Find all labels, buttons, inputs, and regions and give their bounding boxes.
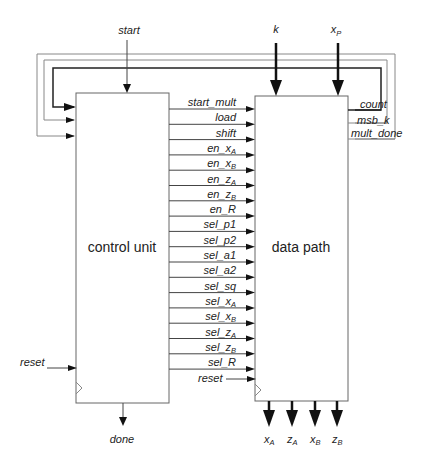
control-signal: en_R — [169, 203, 255, 219]
control-signal: shift — [169, 127, 255, 143]
control-signal-label: sel_a1 — [204, 249, 236, 261]
arrow-down-icon — [309, 410, 321, 427]
msb-k-label: msb_k — [357, 114, 390, 126]
control-signal-label: sel_p2 — [204, 234, 236, 246]
arrow-down-icon — [286, 410, 298, 427]
control-signal-label: en_xA — [207, 142, 236, 156]
arrow-right-icon — [246, 320, 255, 326]
arrow-right-icon — [246, 366, 255, 372]
control-signal-label: sel_sq — [204, 280, 237, 292]
control-signal-bus: start_multloadshiften_xAen_xBen_zAen_zBe… — [169, 96, 255, 372]
arrow-down-icon — [331, 410, 343, 427]
data-output: zB — [331, 401, 343, 447]
xp-label: xP — [330, 23, 342, 38]
control-signal-label: sel_a2 — [204, 264, 236, 276]
control-signal: sel_a1 — [169, 249, 255, 265]
data-output-label: xB — [309, 433, 321, 447]
diagram-canvas: control unit data path count msb_k mult_… — [0, 0, 435, 467]
control-signal: sel_xA — [169, 295, 255, 311]
control-signal: sel_a2 — [169, 264, 255, 280]
mult-done-label: mult_done — [351, 127, 402, 139]
control-signal-label: en_xB — [207, 157, 236, 171]
arrow-right-icon — [246, 290, 255, 296]
data-output: xA — [263, 401, 275, 447]
data-output-bus: xAzAxBzB — [263, 401, 343, 447]
arrow-right-icon — [246, 167, 255, 173]
control-signal-label: sel_zA — [205, 326, 236, 340]
k-arrow-icon — [270, 80, 282, 96]
data-output-label: xA — [263, 433, 275, 447]
control-signal-label: en_zB — [207, 188, 236, 202]
control-signal: sel_zB — [169, 341, 255, 357]
control-signal: sel_R — [169, 356, 255, 372]
arrow-right-icon — [246, 106, 255, 112]
control-signal: sel_zA — [169, 326, 255, 342]
done-label: done — [110, 433, 134, 445]
arrow-right-icon — [246, 121, 255, 127]
control-signal-label: load — [215, 111, 237, 123]
control-signal: load — [169, 111, 255, 127]
count-label: count — [360, 98, 388, 110]
xp-arrow-icon — [332, 80, 344, 96]
control-unit-label: control unit — [88, 239, 157, 255]
control-signal-label: en_zA — [207, 173, 236, 187]
data-output: xB — [309, 401, 321, 447]
control-signal-label: shift — [216, 127, 237, 139]
done-arrow-icon — [119, 417, 127, 426]
control-signal: en_zA — [169, 173, 255, 189]
arrow-right-icon — [246, 336, 255, 342]
arrow-right-icon — [246, 183, 255, 189]
control-signal: en_zB — [169, 188, 255, 204]
data-output-label: zB — [331, 433, 343, 447]
control-signal: sel_sq — [169, 280, 255, 296]
control-signal-label: en_R — [210, 203, 236, 215]
arrow-right-icon — [246, 213, 255, 219]
control-signal: start_mult — [169, 96, 255, 112]
control-signal: en_xA — [169, 142, 255, 158]
start-label: start — [118, 24, 140, 36]
control-signal-label: sel_p1 — [204, 218, 236, 230]
control-signal-label: sel_xB — [205, 310, 236, 324]
arrow-right-icon — [246, 351, 255, 357]
control-signal-label: sel_zB — [205, 341, 236, 355]
arrow-right-icon — [246, 305, 255, 311]
arrow-right-icon — [246, 244, 255, 250]
control-signal-label: sel_xA — [205, 295, 236, 309]
data-output: zA — [286, 401, 298, 447]
arrow-down-icon — [263, 410, 275, 427]
control-signal: en_xB — [169, 157, 255, 173]
data-path-label: data path — [272, 239, 330, 255]
start-arrow-icon — [123, 84, 131, 93]
data-output-label: zA — [286, 433, 298, 447]
control-signal: sel_p2 — [169, 234, 255, 250]
control-signal: sel_xB — [169, 310, 255, 326]
arrow-right-icon — [246, 137, 255, 143]
control-signal-label: start_mult — [188, 96, 237, 108]
control-signal: sel_p1 — [169, 218, 255, 234]
arrow-right-icon — [246, 274, 255, 280]
arrow-right-icon — [246, 228, 255, 234]
k-label: k — [273, 23, 279, 35]
arrow-right-icon — [246, 198, 255, 204]
arrow-right-icon — [246, 152, 255, 158]
arrow-right-icon — [246, 259, 255, 265]
control-signal-label: sel_R — [208, 356, 236, 368]
reset-dp-label: reset — [198, 372, 223, 384]
reset-cu-label: reset — [20, 356, 45, 368]
